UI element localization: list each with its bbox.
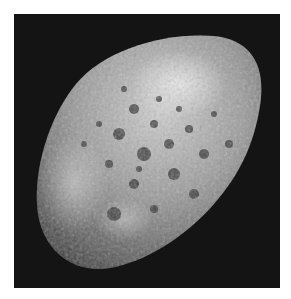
moon-photo — [14, 14, 280, 288]
hyperion-image — [14, 14, 280, 288]
